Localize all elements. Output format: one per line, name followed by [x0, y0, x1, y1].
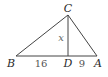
segment-label-da: 9 [79, 58, 85, 69]
segment-label-cd: x [58, 32, 64, 43]
triangle-diagram: C x B 16 D 9 A [0, 0, 108, 77]
segment-label-bd: 16 [35, 58, 48, 69]
triangle-svg: C x B 16 D 9 A [0, 0, 108, 77]
vertex-label-b: B [6, 57, 15, 70]
vertex-label-c: C [64, 2, 73, 15]
segment-ca [68, 15, 97, 56]
vertex-label-d: D [63, 57, 73, 70]
vertex-label-a: A [93, 57, 102, 70]
